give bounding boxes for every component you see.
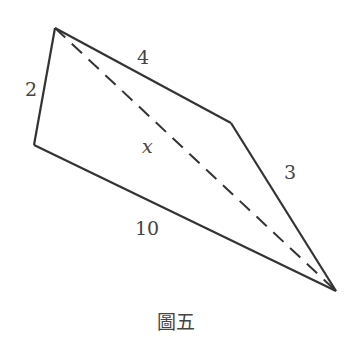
figure-caption: 圖五 <box>157 311 195 333</box>
bottom-edge-label: 10 <box>135 217 159 239</box>
top-edge <box>55 28 231 123</box>
diagonal-x <box>55 28 336 291</box>
left-edge-label: 2 <box>25 78 37 100</box>
diagonal-label: x <box>142 135 153 157</box>
left-edge <box>34 28 55 145</box>
quadrilateral-diagram: 2 4 3 10 x 圖五 <box>0 0 358 350</box>
top-edge-label: 4 <box>137 46 149 68</box>
right-edge-label: 3 <box>284 161 296 183</box>
